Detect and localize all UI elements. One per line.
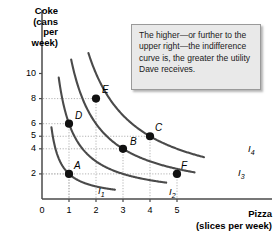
point-label-B: B [130, 136, 137, 147]
y-axis-title-line: week) [6, 38, 58, 49]
y-axis-title-line: Coke [6, 6, 58, 17]
x-axis-tick-label: 3 [117, 205, 129, 215]
curve-label-I2: I2 [169, 186, 176, 199]
data-point-C [146, 132, 154, 140]
data-point-F [173, 170, 181, 178]
callout-text: The higher—or further to the upper right… [139, 30, 257, 76]
x-axis-tick-label: 1 [63, 205, 75, 215]
y-axis-title-line: per [6, 27, 58, 38]
x-axis-tick-label: 4 [144, 205, 156, 215]
y-axis-tick-label: 6 [20, 118, 36, 128]
y-axis-tick-label: 10 [20, 68, 36, 78]
data-point-B [119, 145, 127, 153]
y-axis-tick-label: 4 [20, 143, 36, 153]
indifference-curve-figure: Coke(cansperweek) Pizza (slices per week… [0, 0, 277, 248]
callout-box: The higher—or further to the upper right… [131, 24, 261, 90]
x-axis-tick-label: 5 [171, 205, 183, 215]
data-point-A [65, 170, 73, 178]
curve-label-subscript: 3 [241, 173, 245, 180]
point-label-D: D [75, 110, 82, 121]
gridlines [43, 99, 177, 198]
curve-label-I3: I3 [238, 167, 245, 180]
y-axis-tick-label: 5 [20, 130, 36, 140]
x-axis-title: Pizza [196, 209, 272, 220]
curve-label-subscript: 2 [172, 192, 176, 199]
y-axis-tick-label: 2 [20, 168, 36, 178]
curve-label-I4: I4 [248, 143, 255, 156]
y-axis-tick-label: 8 [20, 93, 36, 103]
point-label-F: F [181, 160, 187, 171]
curve-label-subscript: 4 [251, 149, 255, 156]
point-label-A: A [74, 160, 81, 171]
data-point-E [92, 95, 100, 103]
data-point-D [65, 120, 73, 128]
curve-label-subscript: 1 [101, 191, 105, 198]
x-axis-tick-label: 2 [90, 205, 102, 215]
x-axis-tick-label: 0 [36, 205, 48, 215]
x-axis-subtitle: (slices per week) [178, 221, 272, 232]
curve-label-I1: I1 [98, 185, 105, 198]
point-label-C: C [155, 122, 162, 133]
point-label-E: E [102, 84, 109, 95]
y-axis-title: Coke(cansperweek) [6, 6, 58, 48]
